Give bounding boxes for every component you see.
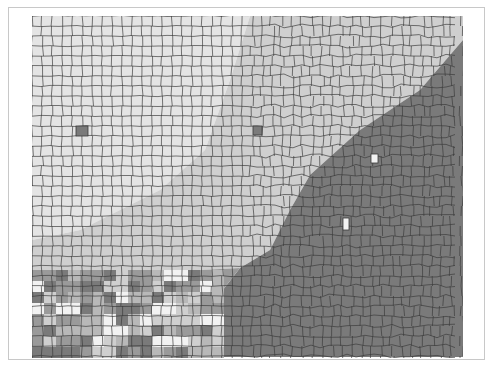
county-cell bbox=[68, 347, 80, 358]
county-cell bbox=[92, 292, 104, 303]
county-cell bbox=[128, 292, 140, 303]
highlighted-county bbox=[343, 218, 349, 230]
county-cell bbox=[128, 325, 140, 336]
county-cell bbox=[44, 303, 56, 314]
county-cell bbox=[164, 303, 176, 314]
county-cell bbox=[44, 325, 56, 336]
county-cell bbox=[140, 270, 152, 281]
county-cell bbox=[32, 336, 44, 347]
county-cell bbox=[188, 270, 200, 281]
county-cell bbox=[212, 292, 224, 303]
county-cell bbox=[116, 303, 128, 314]
highlighted-county bbox=[253, 126, 262, 135]
county-cell bbox=[68, 325, 80, 336]
county-cell bbox=[32, 281, 44, 292]
county-cell bbox=[188, 347, 200, 358]
county-cell bbox=[104, 292, 116, 303]
county-cell bbox=[152, 270, 164, 281]
county-cell bbox=[32, 292, 44, 303]
county-cell bbox=[164, 314, 176, 325]
county-cell bbox=[68, 303, 80, 314]
county-cell bbox=[128, 347, 140, 358]
county-cell bbox=[68, 292, 80, 303]
county-cell bbox=[44, 292, 56, 303]
county-cell bbox=[140, 303, 152, 314]
county-cell bbox=[152, 325, 164, 336]
county-cell bbox=[188, 303, 200, 314]
county-cell bbox=[104, 303, 116, 314]
county-cell bbox=[116, 292, 128, 303]
county-cell bbox=[164, 325, 176, 336]
highlighted-county bbox=[76, 126, 88, 136]
county-cell bbox=[128, 303, 140, 314]
county-cell bbox=[188, 292, 200, 303]
county-cell bbox=[188, 336, 200, 347]
county-cell bbox=[44, 336, 56, 347]
highlighted-county bbox=[371, 154, 378, 163]
county-cell bbox=[188, 325, 200, 336]
county-cell bbox=[32, 303, 44, 314]
county-cell bbox=[80, 292, 92, 303]
county-cell bbox=[164, 292, 176, 303]
county-choropleth-map bbox=[0, 0, 493, 374]
county-cell bbox=[104, 325, 116, 336]
